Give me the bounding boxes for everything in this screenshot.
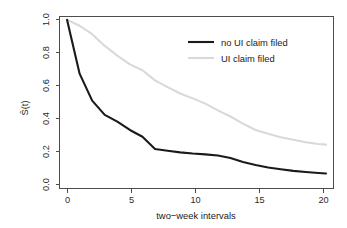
y-axis-title: Ŝ(t) <box>19 100 30 115</box>
survival-curve-figure: 1.0 0.8 0.6 0.4 0.2 0.0 Ŝ(t) 0 5 10 15 2… <box>0 0 347 228</box>
x-tick-label: 20 <box>318 195 328 205</box>
y-tick-label: 0.6 <box>41 79 51 92</box>
x-axis-title: two−week intervals <box>156 210 236 221</box>
y-tick-label: 0.0 <box>41 178 51 191</box>
x-tick-label: 0 <box>65 195 70 205</box>
legend-label-no-ui-claim-filed: no UI claim filed <box>221 37 288 48</box>
y-tick-label: 0.8 <box>41 46 51 59</box>
x-tick-label: 5 <box>129 195 134 205</box>
figure-background <box>0 0 347 228</box>
legend-label-ui-claim-filed: UI claim filed <box>221 53 275 64</box>
y-tick-label: 0.4 <box>41 112 51 125</box>
chart-svg: 1.0 0.8 0.6 0.4 0.2 0.0 Ŝ(t) 0 5 10 15 2… <box>0 0 347 228</box>
y-tick-label: 0.2 <box>41 145 51 158</box>
x-tick-label: 10 <box>190 195 200 205</box>
y-tick-label: 1.0 <box>41 13 51 26</box>
x-tick-label: 15 <box>254 195 264 205</box>
